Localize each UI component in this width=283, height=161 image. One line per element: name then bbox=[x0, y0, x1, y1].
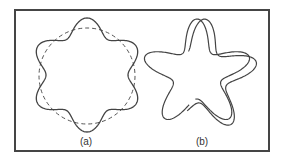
star-curve-offset bbox=[187, 19, 256, 125]
panel-label-a: (a) bbox=[80, 137, 92, 147]
panel-a bbox=[36, 18, 137, 132]
panel-b bbox=[144, 19, 256, 125]
six-lobed-wavy-curve bbox=[36, 18, 137, 132]
figure-canvas bbox=[0, 0, 283, 161]
panel-label-b: (b) bbox=[196, 137, 208, 147]
star-curve-primary bbox=[144, 19, 249, 119]
